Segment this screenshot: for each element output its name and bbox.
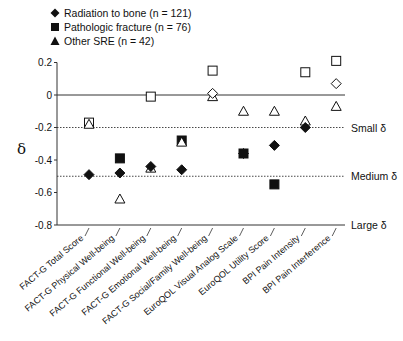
triangle-marker — [239, 106, 249, 115]
diamond-marker — [177, 165, 187, 175]
y-tick-label: 0 — [46, 90, 52, 101]
y-tick-label: -0.6 — [35, 187, 53, 198]
legend-item-radiation: Radiation to bone (n = 121) — [50, 6, 192, 20]
legend-label: Pathologic fracture (n = 76) — [64, 20, 191, 34]
square-marker-icon — [50, 22, 60, 32]
legend-label: Other SRE (n = 42) — [64, 34, 154, 48]
reference-label: Large δ — [351, 219, 387, 231]
x-tick — [332, 228, 336, 236]
y-axis-label: δ — [17, 140, 26, 158]
x-tick — [301, 228, 305, 236]
y-tick-label: -0.2 — [35, 122, 53, 133]
chart: 0.20-0.2-0.4-0.6-0.8Small δMedium δLarge… — [0, 0, 403, 341]
reference-label: Medium δ — [351, 170, 397, 182]
triangle-marker-icon — [50, 36, 60, 46]
square-marker — [146, 92, 155, 101]
triangle-marker — [115, 194, 125, 203]
diamond-marker — [84, 170, 94, 180]
diamond-marker — [208, 88, 218, 98]
x-tick — [178, 228, 182, 236]
legend-item-fracture: Pathologic fracture (n = 76) — [50, 20, 192, 34]
legend-label: Radiation to bone (n = 121) — [64, 6, 192, 20]
square-marker — [208, 66, 217, 75]
y-tick-label: -0.4 — [35, 155, 53, 166]
legend-item-other-sre: Other SRE (n = 42) — [50, 34, 192, 48]
square-marker — [115, 154, 124, 163]
x-tick — [270, 228, 274, 236]
y-tick-label: 0.2 — [38, 57, 52, 68]
square-marker — [301, 68, 310, 77]
y-tick-label: -0.8 — [35, 220, 53, 231]
x-tick — [85, 228, 89, 236]
legend: Radiation to bone (n = 121) Pathologic f… — [50, 6, 192, 48]
diamond-marker-icon — [50, 8, 60, 18]
triangle-marker — [331, 101, 341, 110]
square-marker — [332, 56, 341, 65]
square-marker — [270, 180, 279, 189]
triangle-marker — [269, 106, 279, 115]
x-tick — [209, 228, 213, 236]
diamond-marker — [269, 140, 279, 150]
plot-area: 0.20-0.2-0.4-0.6-0.8Small δMedium δLarge… — [0, 0, 403, 341]
x-tick — [240, 228, 244, 236]
x-tick — [116, 228, 120, 236]
x-tick — [147, 228, 151, 236]
diamond-marker — [331, 79, 341, 89]
reference-label: Small δ — [351, 122, 386, 134]
